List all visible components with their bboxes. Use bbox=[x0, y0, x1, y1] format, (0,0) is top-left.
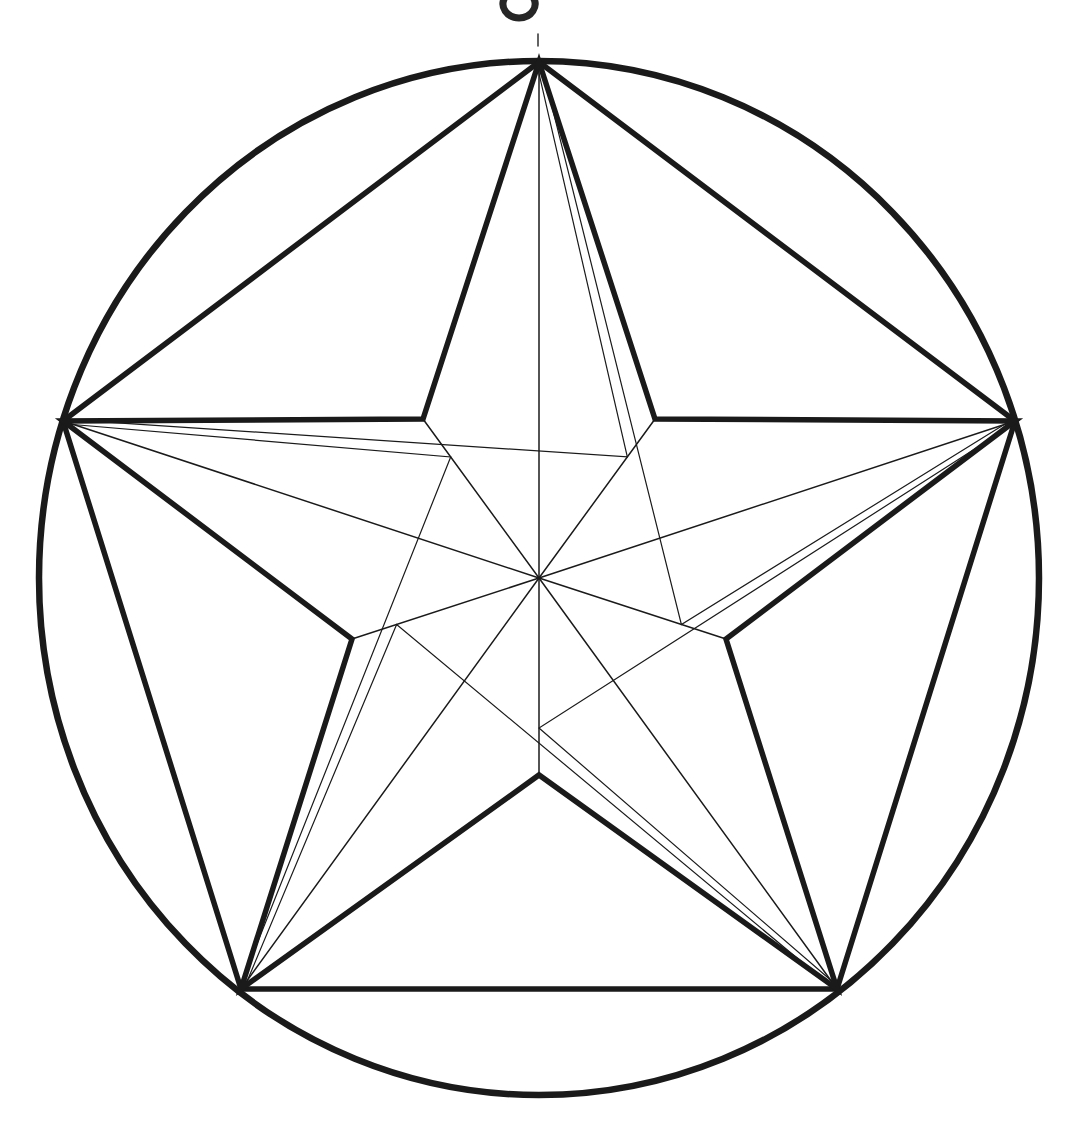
background bbox=[0, 0, 1086, 1141]
figure-canvas: Pentagram inscribed in a circle Geometri… bbox=[0, 0, 1086, 1141]
pentagram-figure: Pentagram inscribed in a circle Geometri… bbox=[0, 0, 1086, 1141]
